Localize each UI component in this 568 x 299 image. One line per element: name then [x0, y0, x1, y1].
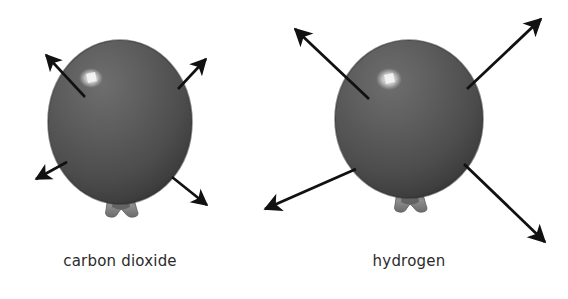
balloon-highlight-hydrogen	[384, 73, 395, 84]
panel-carbon-dioxide	[36, 40, 207, 217]
balloon-hydrogen	[335, 40, 483, 212]
figure-container: carbon dioxide hydrogen	[0, 0, 568, 299]
caption-carbon-dioxide: carbon dioxide	[0, 252, 240, 270]
panel-hydrogen	[265, 19, 545, 242]
arrow-down-right-carbon-dioxide	[172, 177, 207, 205]
arrow-down-right-hydrogen	[464, 164, 545, 242]
arrow-up-right-hydrogen	[467, 19, 541, 89]
arrow-down-left-hydrogen	[265, 169, 356, 209]
balloon-carbon-dioxide	[48, 40, 192, 217]
balloon-highlight-carbon-dioxide	[86, 72, 97, 83]
caption-hydrogen: hydrogen	[284, 252, 534, 270]
arrow-up-right-carbon-dioxide	[178, 59, 206, 89]
